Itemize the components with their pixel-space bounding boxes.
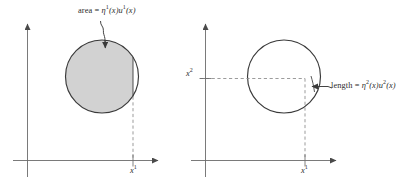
right-x-axis-label: x1 [301,167,308,175]
length-annotation-prefix: length = [331,81,362,90]
right-x-axis-label-sup: 1 [305,164,308,170]
figure-root: area = η1(x)u1(x) length = η2(x)u2(x) x1… [0,0,416,192]
diagram-canvas [0,0,416,192]
left-circle-group [65,39,139,115]
length-annotation-mid: (x) [369,81,379,90]
right-circle-outline [248,40,321,113]
length-annotation-label: length = η2(x)u2(x) [331,82,396,90]
length-annotation-end: (x) [386,81,396,90]
left-x-axis-label-sup: 1 [134,164,137,170]
area-annotation-prefix: area = [78,6,102,15]
area-annotation-label: area = η1(x)u1(x) [78,7,136,15]
left-circle-shaded-region [65,39,133,115]
area-annotation-mid: (x) [109,6,119,15]
left-x-axis-label: x1 [130,167,137,175]
right-y-axis-label-sup: 2 [190,67,193,73]
area-annotation-end: (x) [126,6,136,15]
right-y-axis-label: x2 [186,70,193,78]
